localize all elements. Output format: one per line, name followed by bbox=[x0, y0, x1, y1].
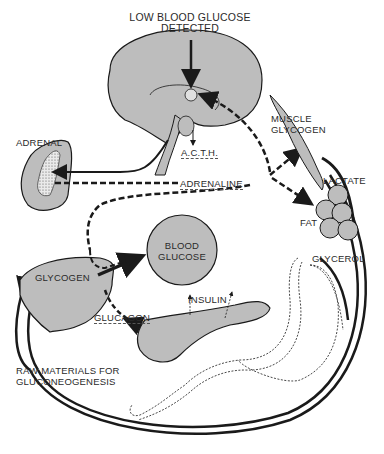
label-acth: A.C.T.H. bbox=[181, 147, 218, 159]
adrenal-gland-icon bbox=[21, 141, 71, 211]
label-glycogen: GLYCOGEN bbox=[35, 272, 90, 283]
label-muscle-glycogen: MUSCLE GLYCOGEN bbox=[271, 113, 326, 135]
label-raw-materials: RAW MATERIALS FOR GLUCONEOGENESIS bbox=[16, 365, 120, 387]
muscle-icon bbox=[270, 95, 323, 190]
label-adrenal: ADRENAL bbox=[16, 137, 62, 148]
label-blood-glucose: BLOOD GLUCOSE bbox=[152, 240, 212, 262]
label-adrenaline: ADRENALINE bbox=[180, 178, 243, 190]
fat-cells-icon bbox=[316, 185, 358, 240]
title-low-blood-glucose: LOW BLOOD GLUCOSE DETECTED bbox=[120, 12, 260, 34]
label-glucagon: GLUCAGON bbox=[94, 312, 150, 324]
label-lactate: LACTATE bbox=[323, 175, 366, 186]
label-glycerol: GLYCEROL bbox=[312, 253, 365, 264]
label-insulin: INSULIN bbox=[188, 294, 227, 305]
label-fat: FAT bbox=[300, 217, 317, 228]
pancreas-icon bbox=[138, 302, 270, 362]
